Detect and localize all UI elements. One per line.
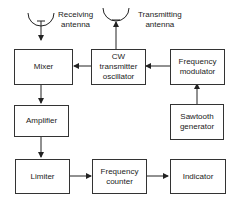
frequency-modulator-block: Frequencymodulator <box>170 49 225 85</box>
label-line: antenna <box>58 20 93 30</box>
amplifier-block: Amplifier <box>14 105 69 137</box>
label-line: Frequency <box>179 57 217 67</box>
label-line: oscillator <box>100 72 138 82</box>
label-line: counter <box>101 177 139 187</box>
mixer-block: Mixer <box>14 49 73 85</box>
receiving-antenna-label: Receiving antenna <box>58 10 93 30</box>
amplifier-label: Amplifier <box>26 116 57 126</box>
indicator-label: Indicator <box>183 172 214 182</box>
label-line: generator <box>180 122 214 132</box>
transmitting-antenna-icon <box>103 8 129 21</box>
label-line: modulator <box>179 67 217 77</box>
label-line: Transmitting <box>138 10 182 20</box>
frequency-counter-block: Frequencycounter <box>92 159 147 194</box>
label-line: Receiving <box>58 10 93 20</box>
label-line: transmitter <box>100 62 138 72</box>
limiter-label: Limiter <box>30 172 54 182</box>
sawtooth-generator-block: Sawtoothgenerator <box>170 104 224 140</box>
mixer-label: Mixer <box>34 62 54 72</box>
label-line: antenna <box>138 20 182 30</box>
label-line: Sawtooth <box>180 112 214 122</box>
limiter-block: Limiter <box>15 159 70 194</box>
cw-oscillator-block: CWtransmitteroscillator <box>91 49 146 85</box>
indicator-block: Indicator <box>170 159 226 194</box>
transmitting-antenna-label: Transmitting antenna <box>138 10 182 30</box>
label-line: CW <box>100 52 138 62</box>
label-line: Frequency <box>101 167 139 177</box>
